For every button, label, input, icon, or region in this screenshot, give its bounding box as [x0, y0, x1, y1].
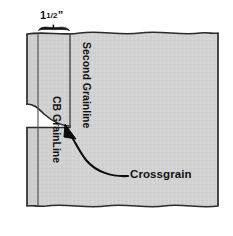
measurement-label: 11/2”	[40, 9, 63, 23]
crossgrain-label: Crossgrain	[130, 168, 192, 181]
second-grainline-label: Second Grainline	[81, 42, 92, 128]
bracket-center-tick	[53, 25, 55, 29]
fabric-bottom-edge	[27, 205, 218, 207]
fabric-top-edge	[27, 32, 218, 34]
diagram-canvas	[0, 0, 233, 236]
measurement-fraction: 1/2	[46, 11, 57, 20]
measurement-unit: ”	[58, 9, 64, 21]
grainline-diagram-figure: 11/2” Second Grainline CB GrainLine Cros…	[0, 0, 233, 236]
measurement-bracket	[39, 25, 70, 31]
cb-grainline-label: CB GrainLine	[51, 96, 62, 163]
